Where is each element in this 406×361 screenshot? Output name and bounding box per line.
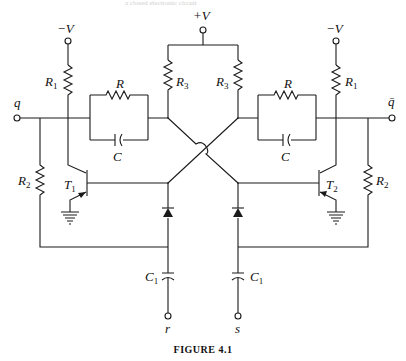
C-left-label: C xyxy=(113,149,122,164)
R2-right-label: R2 xyxy=(375,173,388,190)
ground-icon-left xyxy=(61,212,79,224)
resistor-R3-right: R3 xyxy=(215,60,242,118)
R2-left-label: R2 xyxy=(17,173,30,190)
s-label: s xyxy=(235,321,240,336)
q-output: q xyxy=(14,95,90,121)
plus-v-supply: +V xyxy=(168,8,238,60)
R3-right-label: R3 xyxy=(215,74,229,91)
transistor-T1: T1 xyxy=(61,118,168,224)
resistor-R1-left: R1 xyxy=(44,65,72,118)
R-left-label: R xyxy=(115,76,124,91)
r-input: r xyxy=(165,313,171,336)
minus-v-left-supply: −V xyxy=(57,21,76,65)
plus-v-label: +V xyxy=(193,8,212,23)
minus-v-left-label: −V xyxy=(57,21,76,36)
q-bar-terminal xyxy=(389,115,395,121)
resistor-R1-right: R1 xyxy=(332,65,357,118)
capacitor-C1-right: C1 xyxy=(232,247,263,313)
C1-left-label: C1 xyxy=(145,269,158,286)
minus-v-right-terminal xyxy=(333,38,339,44)
minus-v-left-terminal xyxy=(65,38,71,44)
diode-left xyxy=(162,183,174,247)
q-bar-output: q̄ xyxy=(316,94,395,121)
resistor-R3-left: R3 xyxy=(164,60,189,118)
ground-icon-right xyxy=(327,212,345,224)
C1-right-label: C1 xyxy=(250,269,263,286)
q-label: q xyxy=(14,95,21,110)
T2-label: T2 xyxy=(326,177,338,194)
plus-v-terminal xyxy=(200,27,206,33)
cross-coupling xyxy=(168,118,238,183)
q-terminal xyxy=(14,115,20,121)
transistor-T2: T2 xyxy=(238,118,345,224)
r-label: r xyxy=(165,321,171,336)
minus-v-right-label: −V xyxy=(326,21,345,36)
rc-network-right: R C xyxy=(238,76,316,164)
C-right-label: C xyxy=(281,149,290,164)
rc-network-left: R C xyxy=(90,76,168,164)
T1-label: T1 xyxy=(64,177,76,194)
s-terminal xyxy=(235,313,241,319)
diode-right xyxy=(232,183,244,247)
R3-left-label: R3 xyxy=(175,74,189,91)
R-right-label: R xyxy=(283,76,292,91)
minus-v-right-supply: −V xyxy=(326,21,345,65)
q-bar-label: q̄ xyxy=(388,94,395,109)
page-header-text: a closed electronic circuit xyxy=(125,0,197,7)
figure-caption: FIGURE 4.1 xyxy=(174,344,233,355)
capacitor-C1-left: C1 xyxy=(145,247,174,313)
circuit-diagram: a closed electronic circuit +V R3 R3 −V … xyxy=(0,0,406,361)
s-input: s xyxy=(235,313,241,336)
R1-right-label: R1 xyxy=(344,74,357,91)
R1-left-label: R1 xyxy=(44,74,57,91)
r-terminal xyxy=(165,313,171,319)
